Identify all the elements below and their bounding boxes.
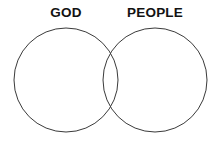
venn-circle-god bbox=[14, 28, 118, 132]
venn-diagram-canvas: GOD PEOPLE bbox=[0, 0, 220, 142]
venn-circles-group bbox=[0, 0, 220, 142]
venn-circle-people bbox=[103, 28, 207, 132]
